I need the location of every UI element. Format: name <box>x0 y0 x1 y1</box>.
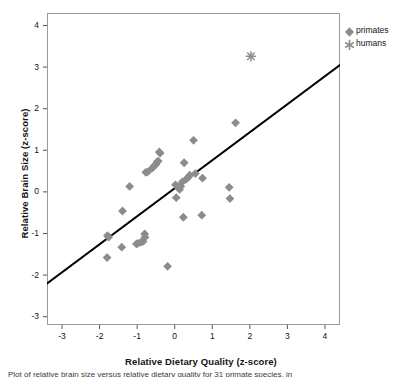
legend-label-primates: primates <box>356 24 389 36</box>
y-axis-title: Relative Brain Size (z-score) <box>19 64 30 284</box>
x-tick-label: 4 <box>313 331 337 341</box>
plot-canvas <box>0 0 402 377</box>
x-tick-label: -1 <box>125 331 149 341</box>
legend-item-humans: humans <box>343 37 401 49</box>
legend-label-humans: humans <box>356 37 386 49</box>
diamond-marker-icon <box>343 24 356 36</box>
plot-legend: primates humans <box>343 24 401 50</box>
x-tick-label: 0 <box>163 331 187 341</box>
y-tick-label: -3 <box>15 311 39 321</box>
y-axis-ticks <box>43 25 47 316</box>
x-tick-label: 2 <box>238 331 262 341</box>
y-tick-label: 4 <box>15 20 39 30</box>
series-humans-markers <box>246 52 255 61</box>
x-tick-label: -3 <box>50 331 74 341</box>
plot-frame <box>48 14 340 325</box>
data-point-marker <box>246 52 255 61</box>
x-tick-label: 1 <box>200 331 224 341</box>
legend-item-primates: primates <box>343 24 401 36</box>
figure-caption: Plot of relative brain size versus relat… <box>8 370 402 377</box>
scatter-plot-figure: -3-2-101234 -3-2-101234 Relative Dietary… <box>0 0 402 377</box>
x-tick-label: -2 <box>88 331 112 341</box>
asterisk-marker-icon <box>343 37 356 49</box>
x-tick-label: 3 <box>275 331 299 341</box>
x-axis-ticks <box>62 325 325 329</box>
x-axis-title: Relative Dietary Quality (z-score) <box>0 356 402 367</box>
